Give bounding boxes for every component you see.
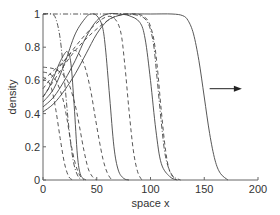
x-tick-label: 150 (195, 183, 213, 195)
series-group (43, 13, 228, 180)
series-line-dashdot-2 (43, 14, 181, 180)
series-line-solid-1 (43, 51, 86, 180)
series-line-solid-3 (43, 13, 177, 180)
annotation-group (210, 86, 242, 92)
y-tick-label: 0.8 (25, 41, 40, 53)
y-tick-label: 0.4 (25, 108, 40, 120)
y-tick-label: 1 (34, 8, 40, 20)
plot-area: 050100150200 00.20.40.60.81 (25, 8, 267, 195)
y-tick-label: 0 (34, 174, 40, 186)
y-tick-label: 0.2 (25, 141, 40, 153)
x-tick-label: 0 (40, 183, 46, 195)
y-axis-label: density (6, 79, 18, 114)
x-axis-label: space x (132, 197, 170, 209)
series-line-solid-4 (43, 14, 228, 180)
x-tick-label: 50 (91, 183, 103, 195)
y-tick-label: 0.6 (25, 74, 40, 86)
series-line-dashdot-1 (43, 14, 82, 180)
x-tick-label: 200 (249, 183, 267, 195)
density-chart: 050100150200 00.20.40.60.81 space x dens… (0, 0, 280, 215)
propagation-arrow-head-icon (234, 86, 242, 92)
x-tick-label: 100 (141, 183, 159, 195)
